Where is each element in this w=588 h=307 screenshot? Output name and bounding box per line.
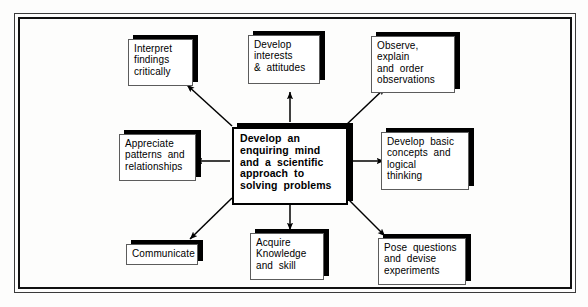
node-line: and devise [384, 253, 461, 264]
node-line: Observe, [377, 40, 450, 51]
node-line: and skill [256, 260, 319, 271]
node-develop-interests[interactable]: Develop interests & attitudes [248, 35, 320, 84]
node-line: Interpret [134, 43, 188, 54]
node-line: patterns and [125, 149, 191, 160]
node-acquire-knowledge[interactable]: Acquire Knowledge and skill [250, 233, 324, 280]
node-line: critically [134, 66, 188, 77]
diagram-canvas: Interpret findings critically Develop in… [0, 0, 588, 307]
node-line: Appreciate [125, 138, 191, 149]
node-pose-questions[interactable]: Pose questions and devise experiments [378, 238, 466, 285]
node-line: observations [377, 74, 450, 85]
node-line: and order [377, 63, 450, 74]
node-line: interests [254, 50, 315, 61]
node-line: Develop basic [387, 136, 464, 147]
node-line: experiments [384, 265, 461, 276]
node-line: thinking [387, 170, 464, 181]
node-line: explain [377, 51, 450, 62]
node-communicate[interactable]: Communicate [126, 244, 198, 265]
node-line: enquiring mind [240, 145, 341, 157]
node-line: concepts and [387, 147, 464, 158]
node-line: relationships [125, 161, 191, 172]
node-line: Develop [254, 39, 315, 50]
node-line: Acquire [256, 237, 319, 248]
node-line: logical [387, 159, 464, 170]
node-line: Knowledge [256, 248, 319, 259]
node-line: findings [134, 54, 188, 65]
node-line: & attitudes [254, 62, 315, 73]
node-line: Communicate [132, 248, 193, 259]
node-line: solving problems [240, 180, 341, 192]
node-line: Pose questions [384, 242, 461, 253]
node-interpret-findings[interactable]: Interpret findings critically [128, 39, 193, 86]
node-center-develop-enquiring-mind[interactable]: Develop an enquiring mind and a scientif… [232, 127, 348, 205]
node-appreciate-patterns[interactable]: Appreciate patterns and relationships [119, 134, 196, 181]
node-develop-concepts[interactable]: Develop basic concepts and logical think… [381, 132, 469, 190]
node-observe-explain[interactable]: Observe, explain and order observations [371, 36, 455, 93]
